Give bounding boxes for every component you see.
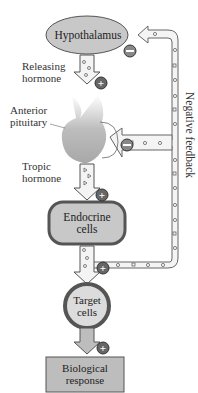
label-line: hormone [22,72,65,84]
target-cells-label: Target cells [65,294,109,318]
label-line: Biological [46,362,124,374]
label-line: Tropic [22,160,61,172]
label-line: Endocrine [49,211,125,223]
label-line: cells [65,306,109,318]
svg-text:+: + [100,342,106,354]
biological-response-label: Biological response [46,362,124,386]
negative-feedback-label: Negative feedback [184,92,196,178]
label-line: Releasing [22,60,65,72]
svg-text:+: + [100,262,106,274]
response-arrow [74,328,100,354]
svg-text:+: + [99,189,105,201]
label-line: Anterior [10,104,47,116]
label-line: cells [49,223,125,235]
anterior-pituitary-label: Anterior pituitary [10,104,47,128]
label-line: Target [65,294,109,306]
hypothalamus-label: Hypothalamus [48,29,128,41]
anterior-pituitary-node [62,95,106,163]
label-line: response [46,374,124,386]
releasing-hormone-label: Releasing hormone [22,60,65,84]
endocrine-cells-label: Endocrine cells [49,211,125,235]
svg-text:+: + [98,77,104,89]
label-line: pituitary [10,116,47,128]
tropic-hormone-label: Tropic hormone [22,160,61,184]
label-line: hormone [22,172,61,184]
feedback-diagram: + + + + [0,0,198,393]
